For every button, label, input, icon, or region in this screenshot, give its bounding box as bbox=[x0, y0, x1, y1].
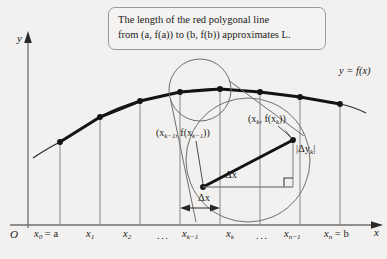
delta-x-arrow-left bbox=[180, 205, 190, 212]
magnifier-connector-left bbox=[171, 100, 197, 223]
leader-to-point-k-1 bbox=[196, 141, 203, 184]
tick-label-ellipsis-left: ... bbox=[157, 231, 169, 242]
tick-label-xk-1: xk−1 bbox=[182, 229, 198, 241]
tick-label-xn: xn = b bbox=[324, 229, 349, 241]
point-xn bbox=[337, 101, 343, 107]
point-xmid bbox=[257, 89, 263, 95]
tick-label-x2: x2 bbox=[123, 229, 131, 241]
inset-triangle-group bbox=[200, 137, 296, 190]
inset-chord-hypotenuse bbox=[203, 140, 293, 187]
arc-length-figure: The length of the red polygonal line fro… bbox=[0, 0, 387, 259]
callout-line-1: The length of the red polygonal line bbox=[118, 13, 317, 28]
callout-line-2: from (a, f(a)) to (b, f(b)) approximates… bbox=[118, 28, 317, 43]
delta-y-k-label: |Δyk| bbox=[296, 144, 315, 156]
inset-leader-lines bbox=[196, 126, 291, 184]
right-angle-marker bbox=[284, 178, 293, 187]
magnifier-connector-right bbox=[229, 81, 304, 136]
droplines-group bbox=[60, 89, 340, 225]
x-axis-label: x bbox=[374, 227, 379, 238]
magnifier-connector-lines bbox=[171, 81, 305, 222]
y-axis-label: y bbox=[17, 33, 22, 44]
tick-label-ellipsis-right: ... bbox=[256, 231, 268, 242]
point-xk bbox=[217, 86, 223, 92]
leader-arrowhead-k bbox=[284, 128, 293, 140]
tick-label-xn-1: xn−1 bbox=[284, 229, 301, 241]
delta-x-inset-label: Δx bbox=[225, 170, 237, 181]
point-x1 bbox=[97, 114, 103, 120]
point-xk-1 bbox=[177, 89, 183, 95]
inset-point-label-k-minus-1: (xk−1, f(xk−1)) bbox=[156, 128, 210, 139]
point-x2 bbox=[137, 98, 143, 104]
delta-x-arrow-right bbox=[210, 205, 220, 212]
curve-label: y = f(x) bbox=[339, 66, 371, 77]
callout-box: The length of the red polygonal line fro… bbox=[108, 7, 326, 50]
tick-label-x0: x0 = a bbox=[34, 229, 58, 241]
tick-label-x1: x1 bbox=[86, 229, 94, 241]
origin-label: O bbox=[10, 229, 18, 240]
y-axis-arrowhead bbox=[24, 31, 32, 43]
point-x0 bbox=[57, 139, 63, 145]
inset-point-label-k: (xk, f(xk)) bbox=[248, 114, 286, 125]
delta-x-axis-label: Δx bbox=[198, 193, 210, 204]
tick-label-xk: xk bbox=[226, 229, 234, 241]
point-xn-1 bbox=[297, 94, 303, 100]
